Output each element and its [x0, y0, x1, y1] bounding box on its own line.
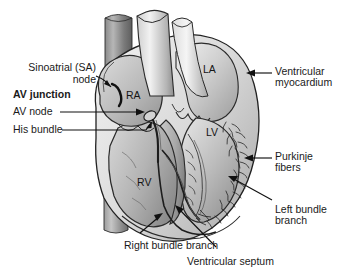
label-left-bundle-branch-line2: branch: [275, 215, 307, 227]
chamber-label-left-ventricle: LV: [206, 126, 218, 138]
label-av-junction: AV junction: [13, 89, 71, 101]
label-ventricular-septum: Ventricular septum: [187, 256, 274, 268]
label-sinoatrial-node-line2: node: [0, 74, 96, 86]
label-av-node: AV node: [13, 106, 53, 118]
label-sinoatrial-node-line1: Sinoatrial (SA): [0, 62, 96, 74]
label-his-bundle: His bundle: [13, 124, 63, 136]
heart-conduction-illustration: [0, 0, 341, 272]
label-ventricular-myocardium-line2: myocardium: [275, 77, 332, 89]
chamber-label-left-atrium: LA: [203, 63, 216, 75]
label-purkinje-fibers-line2: fibers: [275, 162, 301, 174]
label-right-bundle-branch: Right bundle branch: [124, 240, 218, 252]
chamber-label-right-atrium: RA: [126, 89, 141, 101]
chamber-label-right-ventricle: RV: [137, 176, 151, 188]
figure-canvas: Sinoatrial (SA) node AV junction AV node…: [0, 0, 341, 272]
